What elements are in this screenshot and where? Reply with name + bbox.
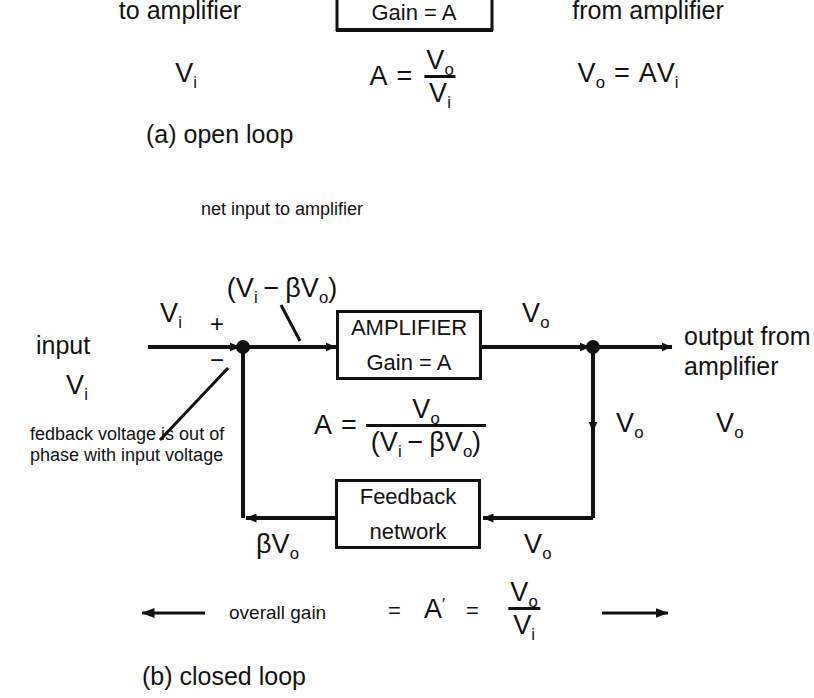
closed-loop-input-arrow-label: Vi: [160, 300, 182, 327]
phase-note-line3: with input voltage: [84, 445, 223, 465]
net-input-line1: net input: [201, 199, 270, 219]
open-loop-output-equation: Vo = AVi: [578, 60, 679, 87]
feedback-box-line1: Feedback: [360, 484, 457, 510]
output-label-line1: output: [684, 322, 754, 350]
overall-gain-equals-1: =: [388, 600, 401, 622]
summing-minus-sign: −: [210, 348, 224, 372]
open-loop-output-label-line1: from: [572, 0, 622, 24]
net-input-expression: (Vi−βVo): [227, 275, 337, 302]
output-label-line3: amplifier: [684, 352, 778, 380]
overall-gain-fraction: Vo Vi: [505, 578, 542, 638]
open-loop-caption: (a) open loop: [146, 122, 293, 147]
summing-plus-sign: +: [210, 312, 224, 336]
net-input-annotation: net input to amplifier: [187, 199, 377, 220]
closed-loop-caption: (b) closed loop: [142, 664, 306, 689]
overall-gain-symbol: A′: [424, 596, 445, 623]
open-loop-output-label: from amplifier: [528, 0, 768, 26]
closed-loop-gain-lhs: A: [314, 412, 332, 439]
open-loop-input-symbol: Vi: [175, 60, 197, 87]
open-loop-input-label-line2: amplifier: [147, 0, 241, 24]
feedback-box-line2: network: [369, 519, 446, 545]
phase-note: fedback voltage is out of phase with inp…: [30, 424, 230, 466]
open-loop-input-label: to amplifier: [70, 0, 290, 26]
feedback-right-label: Vo: [524, 531, 551, 558]
closed-loop-gain-fraction: Vo (Vi−βVo): [366, 396, 486, 456]
net-input-line2: to: [275, 199, 290, 219]
closed-loop-gain-equation: A = Vo (Vi−βVo): [314, 395, 486, 455]
phase-note-line1: fedback voltage: [30, 424, 156, 444]
amplifier-box-title: AMPLIFIER: [351, 315, 467, 341]
closed-loop-gain-denominator: (Vi−βVo): [366, 424, 486, 456]
open-loop-gain-lhs: A: [369, 63, 387, 90]
overall-gain-text: overall gain: [229, 603, 326, 622]
amplifier-output-label: Vo: [522, 300, 549, 327]
overall-gain-prime: ′: [442, 595, 445, 614]
feedback-network-box: Feedback network: [335, 479, 481, 549]
output-label-line2: from: [760, 322, 810, 350]
open-loop-gain-equation: A = Vo Vi: [369, 46, 458, 106]
open-loop-gain-text: Gain = A: [371, 2, 456, 24]
net-input-leader-line: [281, 305, 300, 341]
open-loop-output-label-line2: amplifier: [629, 0, 723, 24]
net-input-line3: amplifier: [295, 199, 363, 219]
feedback-left-label: βVo: [256, 531, 299, 558]
closed-loop-input-word: input: [36, 333, 90, 358]
open-loop-gain-fraction: Vo Vi: [421, 47, 458, 107]
overall-gain-equals-2: =: [466, 600, 479, 622]
closed-loop-output-symbol: Vo: [716, 410, 743, 437]
output-tap-down-label: Vo: [616, 410, 643, 437]
amplifier-box-gain: Gain = A: [366, 350, 451, 376]
closed-loop-input-symbol: Vi: [66, 372, 88, 399]
closed-loop-output-label: output from amplifier: [684, 322, 814, 381]
closed-loop-amplifier-box: AMPLIFIER Gain = A: [336, 310, 482, 380]
open-loop-input-label-line1: to: [119, 0, 140, 24]
